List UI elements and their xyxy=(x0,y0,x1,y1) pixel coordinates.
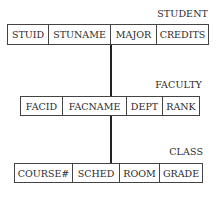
field-rank: RANK xyxy=(163,97,199,115)
field-grade: GRADE xyxy=(160,164,202,182)
record-label-student: STUDENT xyxy=(157,8,208,19)
field-course: COURSE# xyxy=(15,164,73,182)
record-label-class: CLASS xyxy=(169,146,203,157)
field-facid: FACID xyxy=(21,97,63,115)
record-label-faculty: FACULTY xyxy=(155,79,202,90)
field-credits: CREDITS xyxy=(157,25,208,44)
field-stuname: STUNAME xyxy=(49,25,111,44)
field-dept: DEPT xyxy=(127,97,163,115)
field-major: MAJOR xyxy=(111,25,157,44)
field-room: ROOM xyxy=(120,164,160,182)
record-faculty: FACID FACNAME DEPT RANK xyxy=(20,96,200,116)
record-student: STUID STUNAME MAJOR CREDITS xyxy=(7,24,209,45)
field-stuid: STUID xyxy=(8,25,49,44)
field-sched: SCHED xyxy=(73,164,120,182)
field-facname: FACNAME xyxy=(63,97,127,115)
record-class: COURSE# SCHED ROOM GRADE xyxy=(14,163,203,183)
